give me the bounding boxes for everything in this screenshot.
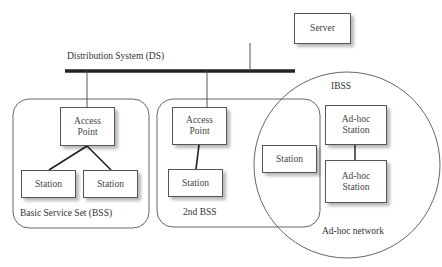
distribution-system-label: Distribution System (DS): [67, 51, 164, 61]
bss1-access-point-line2: Point: [77, 127, 97, 137]
ap1-station2-link: [87, 146, 111, 170]
bss1-station-2: Station: [83, 170, 138, 198]
adhoc-station-1-line2: Station: [343, 125, 370, 135]
bss2-access-point-line1: Access: [186, 115, 213, 125]
ibss-station-label: Station: [276, 154, 303, 165]
ap2-station-link: [196, 145, 199, 169]
bss1-label: Basic Service Set (BSS): [20, 208, 112, 218]
ibss-station: Station: [262, 145, 317, 173]
bss1-access-point-line1: Access: [74, 116, 101, 126]
adhoc-station-2-line2: Station: [343, 182, 370, 192]
bss2-access-point: Access Point: [172, 107, 227, 145]
adhoc-station-1: Ad-hoc Station: [325, 105, 387, 145]
adhoc-network-label: Ad-hoc network: [322, 226, 384, 236]
bss1-station-1-label: Station: [35, 179, 62, 190]
bss1-access-point: Access Point: [60, 107, 115, 146]
bss2-label: 2nd BSS: [183, 207, 217, 217]
server-node: Server: [294, 13, 351, 44]
adhoc-station-2: Ad-hoc Station: [325, 160, 387, 203]
ap1-station1-link: [49, 146, 87, 170]
adhoc-station-1-line1: Ad-hoc: [342, 114, 371, 124]
bss1-station-2-label: Station: [97, 179, 124, 190]
bss2-access-point-line2: Point: [189, 126, 209, 136]
server-label: Server: [310, 23, 335, 34]
ibss-title: IBSS: [331, 81, 351, 91]
adhoc-station-2-line1: Ad-hoc: [342, 171, 371, 181]
bss2-station: Station: [168, 169, 223, 197]
bss2-station-label: Station: [182, 178, 209, 189]
bss1-station-1: Station: [21, 170, 76, 198]
